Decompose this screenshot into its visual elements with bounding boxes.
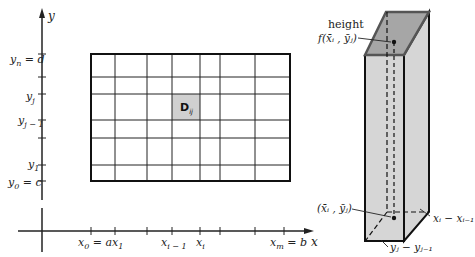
x-tick-label-x0: x0 = a xyxy=(78,236,112,251)
partition-grid: Dij xyxy=(91,54,290,181)
height-formula-label: f(x̄ᵢ , ȳⱼ) xyxy=(317,32,357,44)
y-tick-label-y1: y1 xyxy=(27,158,39,173)
y-tick-label-y0: y0 = c xyxy=(7,176,42,191)
y-axis-break xyxy=(39,200,45,208)
height-label: height xyxy=(328,18,364,31)
axes: y x xyxy=(18,8,318,252)
width-label: xᵢ − xᵢ₋₁ xyxy=(433,212,474,224)
x-axis-label: x xyxy=(311,235,318,249)
x-axis-arrow-icon xyxy=(304,228,314,234)
y-axis-label: y xyxy=(47,9,55,23)
x-tick-label-xm: xm = b xyxy=(270,236,307,251)
top-point xyxy=(392,40,396,44)
x-tick-label-xi-1: xi − 1 xyxy=(161,236,187,251)
y-tick-label-yj-1: yj − 1 xyxy=(17,114,44,129)
x-tick-label-xi: xi xyxy=(196,236,205,251)
x-tick-labels: x0 = a x1 xi − 1 xi xm = b xyxy=(78,236,307,251)
y-tick-labels: yn = d yj yj − 1 y1 y0 = c xyxy=(7,53,45,191)
prism-3d xyxy=(365,12,429,241)
x-tick-label-x1: x1 xyxy=(112,236,123,251)
y-tick-label-yn: yn = d xyxy=(9,53,45,68)
point-label: (x̄ᵢ , ȳⱼ) xyxy=(317,202,352,214)
y-axis-arrow-icon xyxy=(39,8,45,18)
depth-label: yⱼ − yⱼ₋₁ xyxy=(389,241,433,253)
riemann-sum-diagram: y x yn = d yj yj − 1 y1 y0 = c x0 = a x1… xyxy=(0,0,475,257)
y-tick-label-yj: yj xyxy=(25,90,35,105)
base-point xyxy=(392,216,396,220)
